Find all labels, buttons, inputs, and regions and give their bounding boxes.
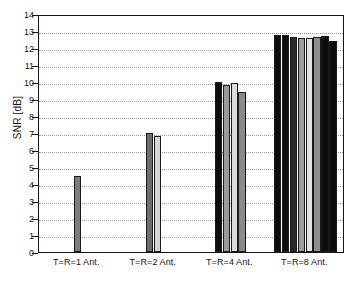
y-axis-tick — [32, 32, 38, 33]
y-axis-tick-label: 12 — [12, 45, 34, 54]
bar — [321, 36, 328, 252]
y-axis-tick — [32, 15, 38, 16]
y-axis-tick — [32, 83, 38, 84]
bar — [154, 136, 161, 252]
bar — [282, 35, 289, 252]
y-axis-tick-label: 13 — [12, 28, 34, 37]
x-axis-tick-labels: T=R=1 Ant.T=R=2 Ant.T=R=4 Ant.T=R=8 Ant. — [38, 257, 344, 271]
bar — [306, 38, 313, 252]
bar — [146, 133, 153, 252]
bar — [274, 35, 281, 252]
y-axis-tick — [32, 49, 38, 50]
bar — [313, 37, 320, 252]
y-axis-tick — [32, 117, 38, 118]
gridline — [39, 33, 343, 34]
x-axis-category-label: T=R=8 Ant. — [281, 257, 328, 267]
bar — [290, 37, 297, 252]
y-axis-tick — [32, 168, 38, 169]
bar — [238, 92, 245, 252]
bar — [329, 41, 336, 252]
y-axis-tick-label: 14 — [12, 11, 34, 20]
bar — [223, 85, 230, 252]
y-axis-tick-label: 2 — [12, 215, 34, 224]
bar — [74, 176, 81, 253]
y-axis-tick — [32, 134, 38, 135]
x-axis-category-label: T=R=1 Ant. — [53, 257, 100, 267]
y-axis-tick-label: 1 — [12, 232, 34, 241]
y-axis-tick-label: 4 — [12, 181, 34, 190]
y-axis-tick-label: 3 — [12, 198, 34, 207]
bar — [231, 83, 238, 252]
x-axis-category-label: T=R=4 Ant. — [206, 257, 253, 267]
plot-area — [38, 15, 344, 253]
y-axis-tick — [32, 236, 38, 237]
y-axis-tick — [32, 100, 38, 101]
y-axis-tick — [32, 151, 38, 152]
y-axis-title: SNR [dB] — [12, 68, 23, 168]
x-axis-category-label: T=R=2 Ant. — [129, 257, 176, 267]
y-axis-tick — [32, 185, 38, 186]
bar — [298, 38, 305, 252]
figure-canvas: 01234567891011121314 SNR [dB] T=R=1 Ant.… — [0, 0, 356, 285]
y-axis-tick — [32, 253, 38, 254]
bar — [215, 82, 222, 252]
y-axis-tick — [32, 202, 38, 203]
y-axis-tick-label: 0 — [12, 249, 34, 258]
y-axis-tick — [32, 219, 38, 220]
y-axis-tick — [32, 66, 38, 67]
